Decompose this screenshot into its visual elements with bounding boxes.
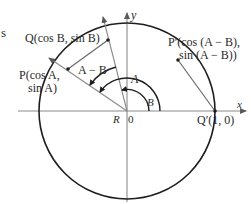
label-Q-text: Q(cos B, sin B): [25, 31, 100, 45]
label-P-line2: sin A): [28, 82, 57, 94]
label-angle-B: B: [147, 96, 154, 108]
cropped-text: s: [1, 27, 6, 39]
chord-PprimeQprime: [178, 60, 215, 111]
label-y-axis: y: [131, 9, 136, 21]
label-P-prime-line2: sin (A − B)): [179, 49, 237, 61]
label-origin: 0: [128, 113, 134, 125]
point-Q: [106, 38, 110, 42]
label-x-axis: x: [237, 98, 242, 110]
label-P-prime-line1: P′(cos (A − B),: [168, 36, 240, 48]
point-P: [66, 67, 70, 71]
label-P-line1: P(cos A,: [19, 69, 60, 81]
label-Q: Q(cos B, sin B): [25, 32, 100, 44]
label-Q-prime: Q′(1, 0): [197, 114, 234, 126]
label-angle-A: A: [131, 73, 138, 85]
label-angle-A-minus-B: A − B: [78, 64, 107, 76]
label-R: R: [113, 113, 120, 125]
